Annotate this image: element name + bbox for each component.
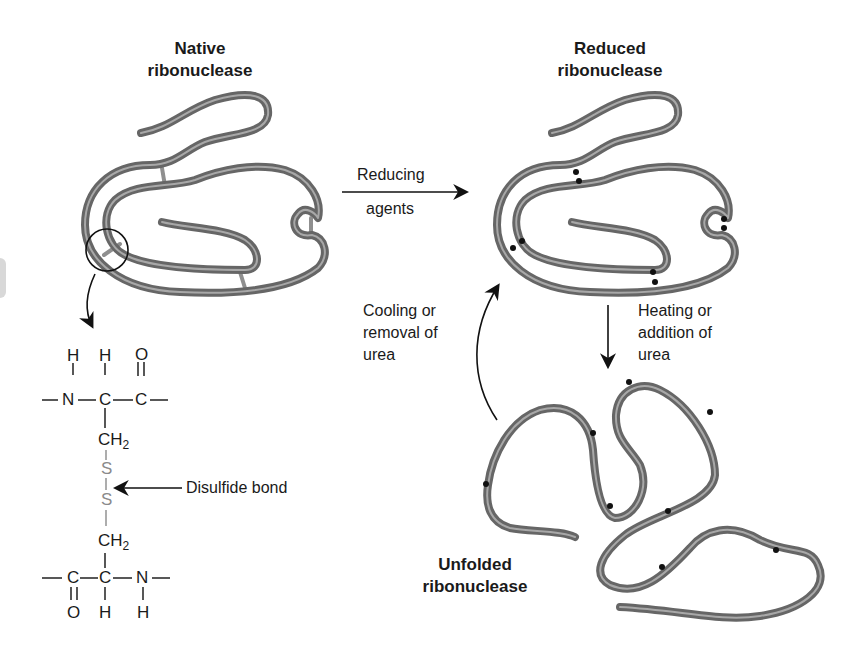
- zoom-arrow: [87, 274, 95, 326]
- renature-label-line1: Cooling or: [363, 300, 438, 322]
- disulfide-bond-label: Disulfide bond: [186, 477, 287, 499]
- atom-o-bottom: O: [67, 604, 80, 622]
- denature-label-line3: urea: [638, 344, 712, 366]
- unfolded-title-line2: ribonuclease: [400, 576, 550, 598]
- atom-c-top: C: [135, 391, 147, 409]
- unfolded-title-line1: Unfolded: [400, 554, 550, 576]
- denature-label: Heating or addition of urea: [638, 300, 712, 366]
- renature-label: Cooling or removal of urea: [363, 300, 438, 366]
- ch2-bottom: CH2: [98, 532, 129, 555]
- renature-label-line3: urea: [363, 344, 438, 366]
- atom-o-top: O: [135, 346, 148, 364]
- renature-arrow: [477, 286, 498, 420]
- unfolded-title: Unfolded ribonuclease: [400, 554, 550, 598]
- native-title-line2: ribonuclease: [120, 60, 280, 82]
- ch2-top: CH2: [98, 431, 129, 454]
- atom-n-bottom: N: [136, 569, 148, 587]
- ch2-top-text: CH: [98, 430, 123, 449]
- reduced-ribonuclease-chain: [497, 95, 735, 293]
- sulfur-2: S: [101, 491, 112, 509]
- ch2-top-subscript: 2: [123, 438, 130, 452]
- sulfur-1: S: [101, 460, 112, 478]
- atom-ca-bottom: C: [99, 569, 111, 587]
- reducing-label-line1: Reducing: [357, 164, 425, 186]
- atom-h-n: H: [67, 347, 79, 365]
- reduced-title-line1: Reduced: [530, 38, 690, 60]
- ch2-bottom-subscript: 2: [123, 539, 130, 553]
- denature-label-line1: Heating or: [638, 300, 712, 322]
- reducing-label-line2: agents: [366, 198, 414, 220]
- atom-n-top: N: [62, 391, 74, 409]
- ch2-bottom-text: CH: [98, 531, 123, 550]
- native-title-line1: Native: [120, 38, 280, 60]
- reduced-title: Reduced ribonuclease: [530, 38, 690, 82]
- native-title: Native ribonuclease: [120, 38, 280, 82]
- native-ribonuclease-chain: [85, 95, 325, 293]
- atom-c-bottom: C: [67, 569, 79, 587]
- reduced-title-line2: ribonuclease: [530, 60, 690, 82]
- denature-label-line2: addition of: [638, 322, 712, 344]
- renature-label-line2: removal of: [363, 322, 438, 344]
- atom-h-n-bottom: H: [137, 604, 149, 622]
- atom-h-ca-bottom: H: [99, 604, 111, 622]
- free-thiol-dots-unfolded: [483, 379, 779, 570]
- atom-ca-top: C: [99, 391, 111, 409]
- atom-h-c: H: [99, 347, 111, 365]
